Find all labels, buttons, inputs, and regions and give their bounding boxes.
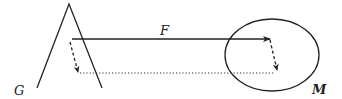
label-g: G bbox=[14, 83, 24, 98]
label-force: F bbox=[159, 23, 170, 38]
diagram-canvas: F G M bbox=[0, 0, 342, 99]
dashed-arrow-right bbox=[270, 40, 277, 70]
label-m: M bbox=[311, 82, 327, 97]
body-m-ellipse bbox=[225, 19, 319, 91]
dashed-arrow-left bbox=[70, 42, 78, 72]
body-g-shape bbox=[37, 4, 102, 88]
